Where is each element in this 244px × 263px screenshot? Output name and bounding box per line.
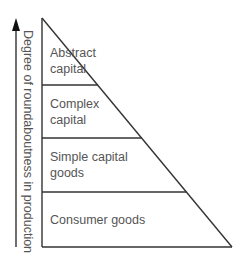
axis-arrow-head-icon [12,18,20,31]
roundaboutness-pyramid-diagram: Degree of roundaboutness in production A… [0,0,244,263]
level-label-line: Consumer goods [50,213,145,227]
level-consumer-goods: Consumer goods [50,213,145,227]
level-simple-capital-goods: Simple capital goods [50,150,128,180]
level-abstract-capital: Abstract capital [50,46,96,76]
level-label-line: capital [50,62,86,76]
level-label-line: Abstract [50,46,96,60]
level-label-line: capital [50,113,86,127]
level-complex-capital: Complex capital [50,97,100,127]
level-label-line: goods [50,166,84,180]
level-label-line: Simple capital [50,150,128,164]
level-label-line: Complex [50,97,100,111]
axis-label: Degree of roundaboutness in production [21,30,35,253]
